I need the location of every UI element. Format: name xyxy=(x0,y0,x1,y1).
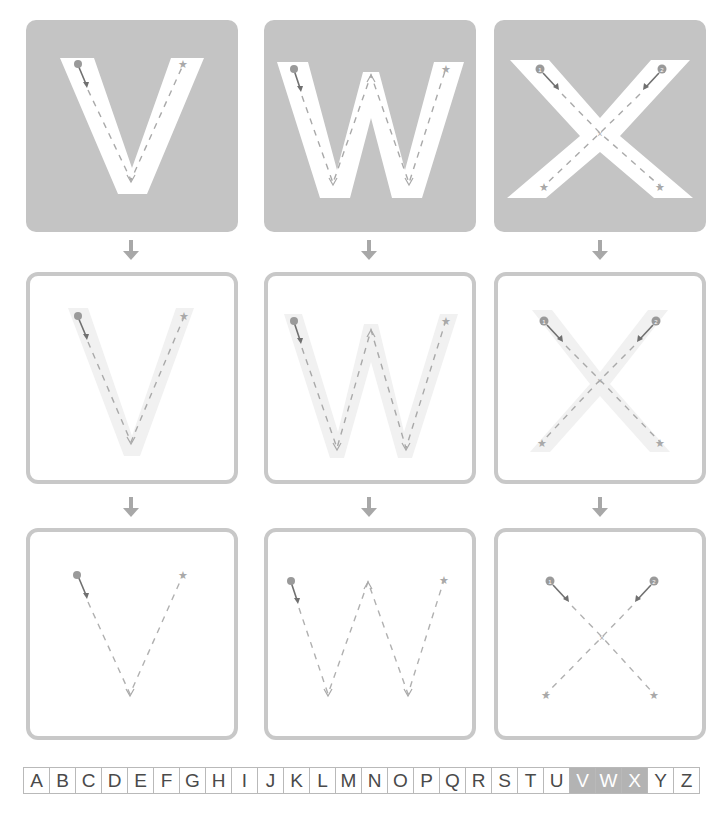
alphabet-cell-v-highlighted: V xyxy=(570,768,596,793)
alphabet-cell-i: I xyxy=(232,768,258,793)
alphabet-cell-h: H xyxy=(206,768,232,793)
alphabet-cell-u: U xyxy=(544,768,570,793)
cross-icon: × xyxy=(597,376,602,386)
alphabet-cell-k: K xyxy=(284,768,310,793)
alphabet-cell-d: D xyxy=(102,768,128,793)
alphabet-strip: A B C D E F G H I J K L M N O P Q R S T … xyxy=(23,767,700,794)
down-arrow-icon xyxy=(359,240,379,262)
alphabet-cell-q: Q xyxy=(440,768,466,793)
letter-card-x-dashed: 1 2 × ★ ★ xyxy=(494,528,706,740)
star-icon: ★ xyxy=(178,58,188,70)
alphabet-cell-j: J xyxy=(258,768,284,793)
star-icon: ★ xyxy=(539,181,549,193)
letter-x-graphic: 1 2 × ★ ★ xyxy=(494,528,706,740)
star-icon: ★ xyxy=(178,569,188,581)
alphabet-cell-x-highlighted: X xyxy=(622,768,648,793)
letter-card-w-dashed: ★ xyxy=(264,528,476,740)
down-arrow-icon xyxy=(121,240,141,262)
letter-x-graphic: 1 2 × ★ ★ xyxy=(494,20,706,232)
letter-v-graphic: ★ xyxy=(26,272,238,484)
alphabet-cell-m: M xyxy=(336,768,362,793)
letter-w-graphic: ★ xyxy=(264,20,476,232)
letter-v-graphic: ★ xyxy=(26,528,238,740)
letter-card-x-solid: 1 2 × ★ ★ xyxy=(494,20,706,232)
letter-card-v-dashed: ★ xyxy=(26,528,238,740)
star-icon: ★ xyxy=(537,437,547,449)
alphabet-cell-c: C xyxy=(76,768,102,793)
alphabet-cell-g: G xyxy=(180,768,206,793)
alphabet-cell-y: Y xyxy=(648,768,674,793)
alphabet-cell-l: L xyxy=(310,768,336,793)
letter-card-v-faint: ★ xyxy=(26,272,238,484)
alphabet-cell-o: O xyxy=(388,768,414,793)
down-arrow-icon xyxy=(590,497,610,519)
cross-icon: × xyxy=(597,129,602,139)
star-icon: ★ xyxy=(655,181,665,193)
star-icon: ★ xyxy=(441,315,451,327)
letter-v-graphic: ★ xyxy=(26,20,238,232)
alphabet-cell-p: P xyxy=(414,768,440,793)
down-arrow-icon xyxy=(590,240,610,262)
alphabet-cell-r: R xyxy=(466,768,492,793)
alphabet-cell-n: N xyxy=(362,768,388,793)
alphabet-cell-z: Z xyxy=(674,768,700,793)
down-arrow-icon xyxy=(121,497,141,519)
alphabet-cell-a: A xyxy=(24,768,50,793)
letter-w-graphic: ★ xyxy=(264,528,476,740)
letter-w-graphic: ★ xyxy=(264,272,476,484)
star-icon: ★ xyxy=(649,689,659,701)
alphabet-cell-b: B xyxy=(50,768,76,793)
star-icon: ★ xyxy=(179,310,189,322)
star-icon: ★ xyxy=(655,437,665,449)
alphabet-cell-t: T xyxy=(518,768,544,793)
letter-x-graphic: 1 2 × ★ ★ xyxy=(494,272,706,484)
alphabet-cell-e: E xyxy=(128,768,154,793)
star-icon: ★ xyxy=(439,574,449,586)
alphabet-cell-f: F xyxy=(154,768,180,793)
down-arrow-icon xyxy=(359,497,379,519)
star-icon: ★ xyxy=(441,63,451,75)
letter-card-v-solid: ★ xyxy=(26,20,238,232)
star-icon: ★ xyxy=(541,689,551,701)
alphabet-cell-s: S xyxy=(492,768,518,793)
letter-card-w-faint: ★ xyxy=(264,272,476,484)
letter-card-x-faint: 1 2 × ★ ★ xyxy=(494,272,706,484)
letter-card-w-solid: ★ xyxy=(264,20,476,232)
cross-icon: × xyxy=(599,633,604,643)
alphabet-cell-w-highlighted: W xyxy=(596,768,622,793)
